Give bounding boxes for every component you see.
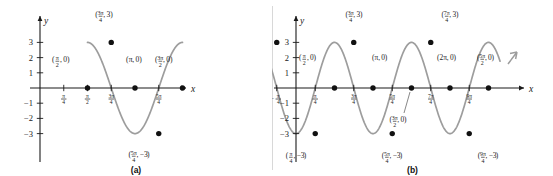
chart-body: xy321−1−2−3−π4π43π45π47π49π4(−π2,0)(−π4,… xyxy=(272,10,534,164)
point-label: (5π4,−3) xyxy=(128,150,150,163)
x-tick-label: 7π4 xyxy=(428,93,434,105)
svg-text:): ) xyxy=(139,55,142,64)
y-tick-label: −1 xyxy=(280,98,289,108)
y-axis-arrow xyxy=(294,16,299,21)
svg-text:4: 4 xyxy=(62,99,65,105)
data-point xyxy=(409,85,414,90)
svg-text:(: ( xyxy=(299,53,302,62)
svg-text:,: , xyxy=(397,115,399,124)
svg-text:4: 4 xyxy=(157,99,160,105)
data-point xyxy=(85,85,90,90)
svg-text:): ) xyxy=(304,151,307,160)
y-tick-label: −1 xyxy=(24,98,33,108)
svg-text:): ) xyxy=(456,10,459,19)
label-leader xyxy=(404,92,410,113)
svg-text:4: 4 xyxy=(445,17,448,23)
point-label: (3π4,3) xyxy=(95,10,113,23)
data-point xyxy=(447,85,452,90)
chart-b-canvas: xy321−1−2−3−π4π43π45π47π49π4(−π2,0)(−π4,… xyxy=(272,0,553,176)
svg-text:): ) xyxy=(110,10,113,19)
svg-text:,: , xyxy=(103,10,105,19)
svg-text:,: , xyxy=(449,10,451,19)
y-tick-label: 1 xyxy=(285,68,289,78)
svg-text:2: 2 xyxy=(56,62,59,68)
point-label: (7π4,3) xyxy=(441,10,459,23)
svg-text:2: 2 xyxy=(481,60,484,66)
x-tick-label: π2 xyxy=(85,93,90,105)
svg-text:(: ( xyxy=(52,55,55,64)
y-axis-label: y xyxy=(43,16,49,26)
data-point xyxy=(274,40,279,45)
x-tick-label: π4 xyxy=(313,93,318,105)
x-axis-label: x xyxy=(528,84,534,94)
data-point xyxy=(332,85,337,90)
y-tick-label: −2 xyxy=(24,113,33,123)
data-point xyxy=(351,40,356,45)
svg-text:4: 4 xyxy=(289,158,292,164)
svg-text:(: ( xyxy=(286,151,289,160)
y-tick-label: 2 xyxy=(29,53,33,63)
svg-text:,: , xyxy=(447,53,449,62)
data-point xyxy=(390,131,395,136)
svg-text:4: 4 xyxy=(277,99,280,105)
svg-text:4: 4 xyxy=(468,99,471,105)
point-label: (π,0) xyxy=(372,53,388,62)
point-label: (π2,0) xyxy=(52,55,70,68)
x-tick-label: 5π4 xyxy=(389,93,395,105)
svg-text:π: π xyxy=(303,53,306,59)
svg-text:4: 4 xyxy=(391,99,394,105)
panel-a: xy321−1−2−3π4π23π45π4(π2,0)(3π4,3)(π,0)(… xyxy=(0,0,272,176)
y-tick-label: 1 xyxy=(29,68,33,78)
x-axis-arrow xyxy=(519,86,524,91)
svg-text:,: , xyxy=(485,53,487,62)
data-point xyxy=(132,85,137,90)
x-tick-label: 3π4 xyxy=(108,93,114,105)
svg-text:): ) xyxy=(385,53,388,62)
svg-text:,: , xyxy=(378,53,380,62)
data-point xyxy=(370,85,375,90)
data-point xyxy=(156,131,161,136)
svg-text:): ) xyxy=(404,115,407,124)
data-point xyxy=(313,131,318,136)
caption-b: (b) xyxy=(272,165,553,175)
point-label: (3π2,0) xyxy=(155,55,173,68)
data-point xyxy=(467,131,472,136)
x-tick-label: −π4 xyxy=(272,93,281,105)
svg-text:,: , xyxy=(60,55,62,64)
y-axis-label: y xyxy=(299,16,305,26)
svg-text:): ) xyxy=(400,151,403,160)
svg-text:,: , xyxy=(163,55,165,64)
svg-text:4: 4 xyxy=(352,99,355,105)
point-label: (5π4,−3) xyxy=(382,151,403,164)
x-tick-label: 3π4 xyxy=(351,93,357,105)
chart-a-canvas: xy321−1−2−3π4π23π45π4(π2,0)(3π4,3)(π,0)(… xyxy=(0,0,272,176)
chart-body: xy321−1−2−3π4π23π45π4(π2,0)(3π4,3)(π,0)(… xyxy=(24,10,196,163)
svg-text:−: − xyxy=(272,95,275,101)
curve-continuation-arrow xyxy=(508,52,517,64)
svg-text:,: , xyxy=(390,151,392,160)
svg-text:4: 4 xyxy=(349,17,352,23)
svg-text:π: π xyxy=(289,151,292,157)
data-point xyxy=(486,85,491,90)
x-axis-label: x xyxy=(190,84,196,94)
svg-text:,: , xyxy=(486,151,488,160)
svg-text:): ) xyxy=(453,53,456,62)
svg-text:4: 4 xyxy=(385,158,388,164)
caption-a: (a) xyxy=(0,165,272,175)
svg-text:4: 4 xyxy=(314,99,317,105)
panel-b: xy321−1−2−3−π4π43π45π47π49π4(−π2,0)(−π4,… xyxy=(272,0,553,176)
y-tick-label: 3 xyxy=(285,37,289,47)
point-label: (3π4,3) xyxy=(345,10,363,23)
x-tick-label: 5π4 xyxy=(156,93,162,105)
x-tick-label: 9π4 xyxy=(466,93,472,105)
svg-text:,: , xyxy=(132,55,134,64)
y-tick-label: 2 xyxy=(285,53,289,63)
svg-text:2: 2 xyxy=(159,62,162,68)
svg-text:): ) xyxy=(492,53,495,62)
data-point xyxy=(180,85,185,90)
svg-text:): ) xyxy=(170,55,173,64)
svg-text:): ) xyxy=(147,150,150,159)
point-label: (π,0) xyxy=(126,55,142,64)
y-axis-arrow xyxy=(38,16,43,21)
svg-text:4: 4 xyxy=(481,158,484,164)
